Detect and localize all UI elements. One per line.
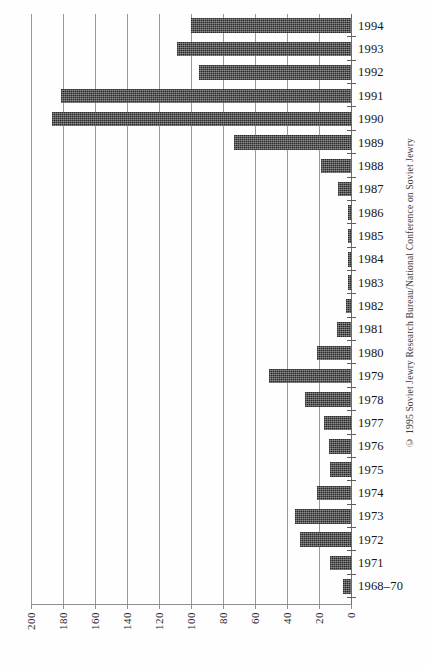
y-axis-label-1968–70: 1968–70 [358, 579, 403, 594]
y-axis-label-1990: 1990 [358, 112, 384, 127]
bar-row: 1994 [0, 14, 430, 37]
bar-row: 1976 [0, 435, 430, 458]
bar-1987 [338, 182, 351, 196]
bar-1975 [330, 462, 351, 476]
bar-row: 1985 [0, 224, 430, 247]
bar-1988 [321, 159, 351, 173]
y-axis-label-1982: 1982 [358, 299, 384, 314]
y-axis-label-1976: 1976 [358, 439, 384, 454]
bar-row: 1972 [0, 528, 430, 551]
bar-1993 [177, 42, 351, 56]
x-tick-40 [287, 604, 288, 609]
bar-1981 [337, 322, 351, 336]
bar-row: 1993 [0, 37, 430, 60]
bar-1980 [317, 346, 351, 360]
y-axis-label-1971: 1971 [358, 556, 384, 571]
y-axis-label-1978: 1978 [358, 393, 384, 408]
y-axis-label-1985: 1985 [358, 229, 384, 244]
bar-row: 1987 [0, 178, 430, 201]
y-axis-label-1980: 1980 [358, 346, 384, 361]
y-tick-1968–70 [347, 597, 356, 598]
x-tick-label-100: 100 [185, 612, 197, 630]
bar-row: 1968–70 [0, 575, 430, 598]
bar-1986 [348, 205, 351, 219]
bar-1971 [330, 556, 351, 570]
bar-1977 [324, 416, 351, 430]
x-tick-label-180: 180 [57, 612, 69, 630]
bar-1982 [346, 299, 351, 313]
bar-row: 1981 [0, 318, 430, 341]
bar-1978 [305, 392, 351, 406]
bar-1972 [300, 532, 351, 546]
x-tick-140 [127, 604, 128, 609]
bar-1976 [329, 439, 351, 453]
bar-1979 [269, 369, 351, 383]
x-tick-100 [191, 604, 192, 609]
bar-row: 1986 [0, 201, 430, 224]
bar-row: 1992 [0, 61, 430, 84]
x-tick-20 [319, 604, 320, 609]
bar-1992 [199, 65, 351, 79]
bar-row: 1979 [0, 364, 430, 387]
y-axis-label-1992: 1992 [358, 65, 384, 80]
bar-1985 [348, 229, 351, 243]
y-axis-label-1981: 1981 [358, 322, 384, 337]
x-tick-label-80: 80 [217, 612, 229, 624]
bar-1973 [295, 509, 351, 523]
x-tick-label-20: 20 [313, 612, 325, 624]
y-axis-label-1994: 1994 [358, 19, 384, 34]
bar-row: 1983 [0, 271, 430, 294]
bar-row: 1974 [0, 481, 430, 504]
x-tick-120 [159, 604, 160, 609]
bar-row: 1991 [0, 84, 430, 107]
bar-1994 [191, 18, 351, 32]
bar-row: 1977 [0, 411, 430, 434]
bar-rows: 1994199319921991199019891988198719861985… [0, 14, 430, 604]
y-axis-label-1989: 1989 [358, 136, 384, 151]
y-axis-label-1972: 1972 [358, 533, 384, 548]
x-tick-label-60: 60 [249, 612, 261, 624]
y-axis-label-1979: 1979 [358, 369, 384, 384]
y-axis-label-1991: 1991 [358, 89, 384, 104]
bar-1990 [52, 112, 351, 126]
y-axis-label-1986: 1986 [358, 206, 384, 221]
x-tick-label-200: 200 [25, 612, 37, 630]
bar-1991 [61, 89, 351, 103]
bar-row: 1990 [0, 107, 430, 130]
bar-1989 [234, 135, 351, 149]
bar-row: 1988 [0, 154, 430, 177]
y-axis-label-1974: 1974 [358, 486, 384, 501]
bar-1968–70 [343, 579, 351, 593]
x-tick-60 [255, 604, 256, 609]
x-tick-160 [95, 604, 96, 609]
copyright-credit: © 1995 Soviet Jewry Research Bureau/Nati… [404, 138, 415, 448]
bar-row: 1982 [0, 294, 430, 317]
x-tick-180 [63, 604, 64, 609]
x-tick-80 [223, 604, 224, 609]
y-axis-label-1988: 1988 [358, 159, 384, 174]
bar-row: 1980 [0, 341, 430, 364]
y-axis-label-1977: 1977 [358, 416, 384, 431]
x-tick-label-160: 160 [89, 612, 101, 630]
y-axis-label-1975: 1975 [358, 463, 384, 478]
y-axis-label-1973: 1973 [358, 509, 384, 524]
bar-1984 [348, 252, 351, 266]
x-tick-label-0: 0 [345, 612, 357, 618]
x-tick-label-40: 40 [281, 612, 293, 624]
y-axis-label-1983: 1983 [358, 276, 384, 291]
bar-row: 1989 [0, 131, 430, 154]
bar-1974 [317, 486, 351, 500]
x-tick-200 [31, 604, 32, 609]
bar-row: 1971 [0, 551, 430, 574]
y-axis-label-1984: 1984 [358, 252, 384, 267]
y-axis-label-1987: 1987 [358, 182, 384, 197]
bar-row: 1978 [0, 388, 430, 411]
x-tick-0 [351, 604, 352, 609]
bar-row: 1984 [0, 248, 430, 271]
x-tick-label-120: 120 [153, 612, 165, 630]
bar-1983 [348, 275, 351, 289]
x-tick-label-140: 140 [121, 612, 133, 630]
bar-row: 1973 [0, 505, 430, 528]
bar-chart: 200180160140120100806040200 199419931992… [0, 0, 430, 666]
bar-row: 1975 [0, 458, 430, 481]
